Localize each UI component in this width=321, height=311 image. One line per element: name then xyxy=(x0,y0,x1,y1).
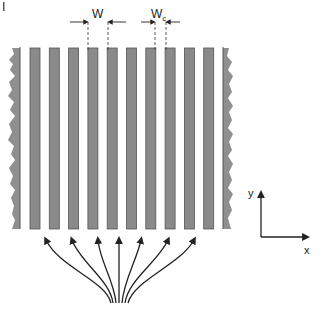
y-axis-label: y xyxy=(248,188,254,199)
electrode-strip xyxy=(30,48,40,229)
x-axis-label: x xyxy=(304,245,310,256)
electrode-strips xyxy=(30,48,214,229)
wc-dimension-marker xyxy=(141,22,180,50)
w-label: W xyxy=(92,8,103,23)
electrode-strip xyxy=(184,48,194,229)
electrode-strip xyxy=(88,48,98,229)
electrode-strip xyxy=(69,48,79,229)
electrode-diagram xyxy=(0,0,321,311)
left-jagged-edge xyxy=(8,47,20,229)
flow-arrows xyxy=(46,240,194,303)
electrode-strip xyxy=(204,48,214,229)
axis-indicator xyxy=(261,194,306,237)
wc-label: Wc xyxy=(151,8,166,23)
w-dimension-marker xyxy=(70,22,126,50)
electrode-strip xyxy=(165,48,175,229)
electrode-strip xyxy=(107,48,117,229)
electrode-strip xyxy=(49,48,59,229)
panel-mark xyxy=(3,2,5,11)
electrode-strip xyxy=(146,48,156,229)
electrode-strip xyxy=(127,48,137,229)
right-jagged-edge xyxy=(223,47,233,229)
